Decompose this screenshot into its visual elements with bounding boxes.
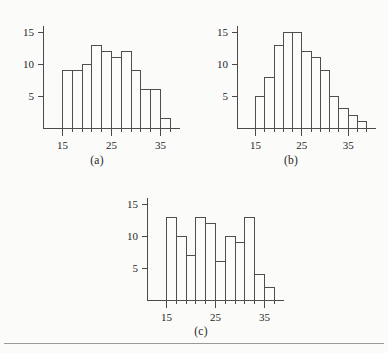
histogram-bar — [274, 45, 283, 128]
histogram-panel-b: 51015152535 (b) — [194, 4, 388, 176]
plot-area-a: 51015152535 — [0, 4, 194, 176]
panel-caption-c: (c) — [104, 325, 298, 337]
x-tick-label: 35 — [259, 311, 271, 323]
histogram-bar — [330, 96, 339, 128]
histogram-bar — [102, 52, 112, 129]
y-tick-label: 5 — [29, 90, 35, 102]
histogram-bar — [82, 64, 92, 128]
panel-caption-a: (a) — [0, 154, 194, 166]
histogram-bar — [348, 115, 357, 128]
histogram-svg-c: 51015152535 — [104, 182, 298, 347]
histogram-bar — [311, 58, 320, 128]
y-tick-label: 15 — [23, 26, 35, 38]
x-tick-label: 35 — [155, 139, 167, 151]
histogram-bar — [320, 71, 329, 128]
histogram-bar — [141, 90, 151, 128]
histogram-bar — [245, 217, 255, 300]
y-tick-label: 5 — [223, 90, 229, 102]
histogram-bar — [176, 236, 186, 300]
y-tick-label: 5 — [133, 262, 139, 274]
histogram-bar — [160, 118, 170, 128]
histogram-bar — [121, 52, 131, 129]
histogram-bar — [357, 122, 366, 128]
x-tick-label: 25 — [296, 139, 308, 151]
histogram-svg-a: 51015152535 — [0, 4, 194, 176]
y-tick-label: 15 — [217, 26, 229, 38]
histogram-bar — [293, 32, 302, 128]
y-tick-label: 15 — [127, 198, 139, 210]
plot-area-c: 51015152535 — [104, 182, 298, 347]
y-tick-label: 10 — [217, 58, 229, 70]
histogram-bar — [256, 96, 265, 128]
histogram-svg-b: 51015152535 — [194, 4, 388, 176]
histogram-panel-c: 51015152535 (c) — [104, 182, 298, 347]
x-tick-label: 15 — [250, 139, 262, 151]
histogram-bar — [186, 255, 196, 300]
histogram-figure: 51015152535 (a) 51015152535 (b) 51015152… — [0, 0, 388, 353]
histogram-bar — [63, 71, 73, 128]
x-tick-label: 15 — [57, 139, 69, 151]
histogram-bar — [167, 217, 177, 300]
histogram-bar — [206, 224, 216, 301]
histogram-bar — [225, 236, 235, 300]
histogram-bar — [92, 45, 102, 128]
histogram-bar — [151, 90, 161, 128]
histogram-bar — [339, 109, 348, 128]
histogram-bar — [235, 243, 245, 300]
panel-caption-b: (b) — [194, 154, 388, 166]
histogram-bar — [216, 262, 226, 300]
histogram-bar — [255, 275, 265, 301]
y-tick-label: 10 — [23, 58, 35, 70]
histogram-bar — [196, 217, 206, 300]
histogram-panel-a: 51015152535 (a) — [0, 4, 194, 176]
histogram-bar — [265, 77, 274, 128]
x-tick-label: 25 — [210, 311, 222, 323]
histogram-bar — [283, 32, 292, 128]
x-tick-label: 35 — [343, 139, 355, 151]
y-tick-label: 10 — [127, 230, 139, 242]
histogram-bar — [112, 58, 122, 128]
x-tick-label: 25 — [106, 139, 118, 151]
histogram-bar — [72, 71, 82, 128]
plot-area-b: 51015152535 — [194, 4, 388, 176]
histogram-bar — [302, 52, 311, 129]
x-tick-label: 15 — [161, 311, 173, 323]
footer-divider — [4, 343, 384, 344]
histogram-bar — [264, 287, 274, 300]
histogram-bar — [131, 71, 141, 128]
